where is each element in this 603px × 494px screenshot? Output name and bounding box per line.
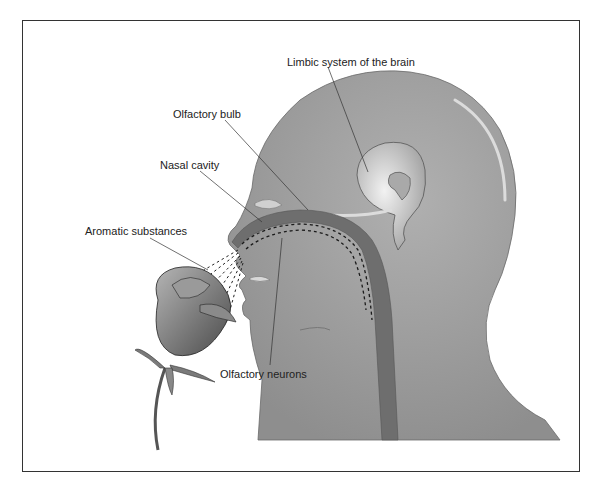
label-limbic-system: Limbic system of the brain: [287, 56, 415, 68]
olfaction-illustration: [0, 0, 603, 494]
label-aromatic-substances: Aromatic substances: [85, 225, 187, 237]
label-olfactory-bulb: Olfactory bulb: [173, 108, 241, 120]
rose-flower: [135, 267, 236, 450]
label-olfactory-neurons: Olfactory neurons: [220, 368, 307, 380]
label-nasal-cavity: Nasal cavity: [160, 159, 219, 171]
